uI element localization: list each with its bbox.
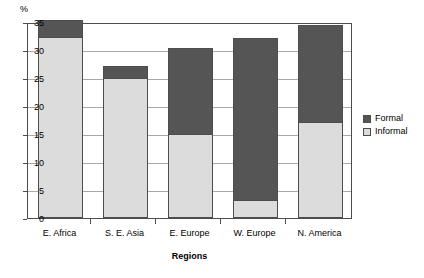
x-axis-category-label: N. America — [287, 228, 352, 239]
legend-swatch-icon — [363, 115, 371, 123]
y-axis-tick-mark — [23, 107, 27, 108]
legend-item[interactable]: Informal — [363, 125, 408, 138]
x-axis-tick-mark — [90, 219, 91, 224]
bar-segment-informal[interactable] — [103, 78, 148, 218]
x-axis-category-label: E. Europe — [157, 228, 222, 239]
legend-label: Informal — [375, 127, 408, 136]
bar-group[interactable] — [233, 22, 278, 218]
plot-inner — [28, 24, 351, 218]
x-axis-tick-mark — [285, 219, 286, 224]
x-axis-title: Regions — [27, 251, 352, 261]
y-axis-tick-mark — [23, 191, 27, 192]
y-axis-tick-mark — [23, 79, 27, 80]
chart-legend: FormalInformal — [363, 112, 408, 138]
legend-swatch-icon — [363, 128, 371, 136]
bar-segment-formal[interactable] — [38, 20, 83, 38]
bar-segment-formal[interactable] — [298, 25, 343, 123]
legend-label: Formal — [375, 114, 403, 123]
plot-area — [27, 23, 352, 219]
y-axis-tick-mark — [23, 219, 27, 220]
bar-segment-informal[interactable] — [168, 134, 213, 218]
x-axis-tick-mark — [220, 219, 221, 224]
y-axis-unit-label: % — [20, 4, 28, 14]
x-axis-category-label: S. E. Asia — [92, 228, 157, 239]
bar-group[interactable] — [298, 22, 343, 218]
x-axis-category-label: W. Europe — [222, 228, 287, 239]
x-axis-tick-mark — [155, 219, 156, 224]
y-axis-tick-mark — [23, 51, 27, 52]
bar-group[interactable] — [38, 22, 83, 218]
bar-group[interactable] — [168, 22, 213, 218]
bar-segment-formal[interactable] — [233, 38, 278, 201]
bar-segment-informal[interactable] — [233, 200, 278, 218]
bar-segment-informal[interactable] — [38, 37, 83, 218]
bar-group[interactable] — [103, 22, 148, 218]
stacked-bar-chart: % 05101520253035 E. AfricaS. E. AsiaE. E… — [0, 0, 424, 278]
bar-segment-formal[interactable] — [103, 66, 148, 79]
x-axis-category-label: E. Africa — [27, 228, 92, 239]
legend-item[interactable]: Formal — [363, 112, 408, 125]
y-axis-tick-mark — [23, 135, 27, 136]
y-axis-tick-mark — [23, 23, 27, 24]
bar-segment-formal[interactable] — [168, 48, 213, 135]
y-axis-tick-mark — [23, 163, 27, 164]
bar-segment-informal[interactable] — [298, 122, 343, 218]
